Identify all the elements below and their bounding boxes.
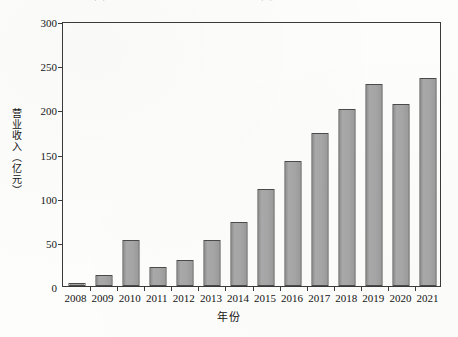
x-tick-mark (415, 286, 416, 291)
x-tick-label: 2019 (362, 292, 384, 304)
bar-slot (253, 23, 280, 286)
x-tick-mark (280, 286, 281, 291)
bar (95, 275, 112, 286)
y-tick-label: 150 (41, 150, 58, 161)
plot-area: 050100150200250300 (62, 22, 441, 287)
x-tick-label: 2011 (146, 292, 168, 304)
bar (366, 84, 383, 286)
chart-title: 图 1 2008—2021 年某出版发行集团营业收入发展情况 (0, 0, 458, 2)
bar-slot (171, 23, 198, 286)
bar-slot (63, 23, 90, 286)
x-tick-label: 2015 (254, 292, 276, 304)
x-tick-label: 2012 (173, 292, 195, 304)
x-tick-label: 2017 (308, 292, 330, 304)
bar (258, 189, 275, 286)
bar (149, 267, 166, 286)
x-tick-mark (307, 286, 308, 291)
bar (339, 109, 356, 286)
x-tick-label: 2021 (416, 292, 438, 304)
y-tick-label: 100 (41, 194, 58, 205)
bar-slot (307, 23, 334, 286)
x-axis-title: 年份 (0, 311, 458, 323)
x-tick-mark (90, 286, 91, 291)
x-tick-label: 2008 (65, 292, 87, 304)
x-tick-label: 2018 (335, 292, 357, 304)
x-tick-mark (198, 286, 199, 291)
x-tick-label: 2013 (200, 292, 222, 304)
x-tick-mark (225, 286, 226, 291)
y-tick-label: 0 (52, 283, 58, 294)
bar (393, 104, 410, 286)
bar (176, 260, 193, 287)
x-tick-label: 2020 (389, 292, 411, 304)
bar-slot (361, 23, 388, 286)
bar-slot (225, 23, 252, 286)
bar (285, 161, 302, 286)
x-tick-mark (361, 286, 362, 291)
x-tick-mark (334, 286, 335, 291)
bar-slot (90, 23, 117, 286)
x-tick-mark (171, 286, 172, 291)
y-axis-title: 营业收入（亿元） (5, 108, 21, 196)
bar-slot (144, 23, 171, 286)
bar (420, 78, 437, 286)
y-tick-label: 200 (41, 106, 58, 117)
bar-slot (117, 23, 144, 286)
bar-series (63, 23, 440, 286)
bar (68, 283, 85, 286)
x-tick-mark (144, 286, 145, 291)
x-tick-mark (388, 286, 389, 291)
x-tick-mark (253, 286, 254, 291)
y-tick-label: 50 (46, 238, 57, 249)
bar-slot (280, 23, 307, 286)
bar (230, 222, 247, 286)
x-tick-label: 2014 (227, 292, 249, 304)
bar-chart-figure: 图 1 2008—2021 年某出版发行集团营业收入发展情况 营业收入（亿元） … (0, 0, 458, 337)
bar-slot (388, 23, 415, 286)
x-tick-label: 2010 (119, 292, 141, 304)
bar-slot (198, 23, 225, 286)
x-tick-mark (117, 286, 118, 291)
bar-slot (415, 23, 442, 286)
x-tick-label: 2009 (92, 292, 114, 304)
y-tick-label: 250 (41, 62, 58, 73)
bar (203, 240, 220, 286)
x-tick-label: 2016 (281, 292, 303, 304)
bar-slot (334, 23, 361, 286)
y-tick-label: 300 (41, 18, 58, 29)
bar (122, 240, 139, 286)
bar (312, 133, 329, 286)
